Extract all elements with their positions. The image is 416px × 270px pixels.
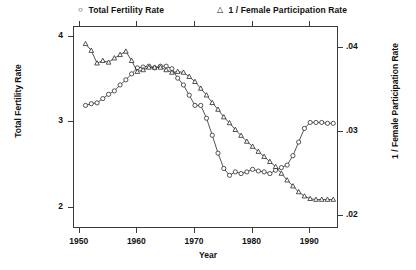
x-axis-tick-label: 1960 [119, 236, 153, 246]
x-axis-top-tick-mark [309, 21, 310, 26]
data-point [181, 83, 185, 87]
y-axis-right-tick-mark [338, 215, 343, 216]
data-point [314, 120, 318, 124]
data-point [331, 121, 335, 125]
data-point [204, 116, 208, 120]
data-point [187, 93, 191, 97]
x-axis-bottom-tick-mark [252, 228, 253, 233]
data-point [325, 121, 329, 125]
y-axis-left-tick-mark [68, 207, 73, 208]
x-axis-tick-label: 1950 [62, 236, 96, 246]
data-point [175, 69, 180, 73]
y-axis-right-tick-label: .03 [346, 125, 372, 135]
chart-legend: ○ Total Fertility Rate △ 1 / Female Part… [0, 2, 416, 18]
y-axis-right-title: 1 / Female Participation Rate [390, 21, 400, 181]
data-point [124, 49, 129, 53]
data-point [176, 76, 180, 80]
data-point [124, 78, 128, 82]
y-axis-right-tick-label: .02 [346, 209, 372, 219]
y-axis-left-tick-label: 4 [41, 30, 63, 40]
x-axis-top-tick-mark [252, 21, 253, 26]
data-point [101, 58, 106, 62]
data-point [130, 72, 134, 76]
data-point [187, 74, 192, 78]
circle-marker-icon: ○ [76, 5, 85, 14]
legend-label: Total Fertility Rate [88, 5, 164, 15]
x-axis-top-tick-mark [194, 21, 195, 26]
plot-area [73, 26, 338, 228]
x-axis-tick-label: 1980 [235, 236, 269, 246]
legend-entry-inverse-female-participation-rate: △ 1 / Female Participation Rate [216, 4, 347, 15]
triangle-marker-icon: △ [216, 5, 225, 14]
data-point [112, 89, 116, 93]
data-point [83, 103, 87, 107]
data-point [245, 170, 249, 174]
data-point [193, 103, 197, 107]
plot-svg [74, 27, 339, 229]
y-axis-right-tick-mark [338, 131, 343, 132]
y-axis-right-tick-mark [338, 47, 343, 48]
x-axis-bottom-tick-mark [309, 228, 310, 233]
data-point [199, 103, 203, 107]
y-axis-left-tick-mark [68, 121, 73, 122]
series-total-fertility-rate [83, 64, 335, 177]
data-point [262, 170, 266, 174]
series-inverse-female-participation-rate [83, 41, 335, 201]
data-point [118, 83, 122, 87]
y-axis-left-tick-mark [68, 36, 73, 37]
data-point [222, 166, 226, 170]
data-point [210, 133, 214, 137]
y-axis-left-tick-label: 2 [41, 201, 63, 211]
data-point [216, 151, 220, 155]
data-point [302, 126, 306, 130]
legend-label: 1 / Female Participation Rate [228, 5, 347, 15]
x-axis-bottom-tick-mark [79, 228, 80, 233]
x-axis-bottom-tick-mark [136, 228, 137, 233]
data-point [320, 120, 324, 124]
data-point [285, 163, 289, 167]
data-point [302, 194, 307, 198]
data-point [239, 172, 243, 176]
data-point [106, 92, 110, 96]
data-point [227, 173, 231, 177]
data-point [89, 102, 93, 106]
data-point [95, 101, 99, 105]
x-axis-bottom-tick-mark [194, 228, 195, 233]
data-point [308, 120, 312, 124]
x-axis-tick-label: 1990 [292, 236, 326, 246]
data-point [268, 172, 272, 176]
x-axis-top-tick-mark [136, 21, 137, 26]
data-point [279, 166, 283, 170]
x-axis-title: Year [0, 250, 416, 260]
data-point [112, 56, 117, 60]
data-point [250, 167, 254, 171]
data-point [83, 41, 88, 45]
data-point [256, 169, 260, 173]
x-axis-top-tick-mark [79, 21, 80, 26]
data-point [101, 96, 105, 100]
data-point [233, 170, 237, 174]
y-axis-left-tick-label: 3 [41, 115, 63, 125]
y-axis-left-title: Total Fertility Rate [13, 46, 23, 156]
y-axis-right-tick-label: .04 [346, 41, 372, 51]
data-point [118, 52, 123, 56]
data-point [297, 140, 301, 144]
chart-figure: ○ Total Fertility Rate △ 1 / Female Part… [0, 0, 416, 270]
legend-entry-total-fertility-rate: ○ Total Fertility Rate [76, 4, 164, 15]
data-point [291, 154, 295, 158]
x-axis-tick-label: 1970 [177, 236, 211, 246]
